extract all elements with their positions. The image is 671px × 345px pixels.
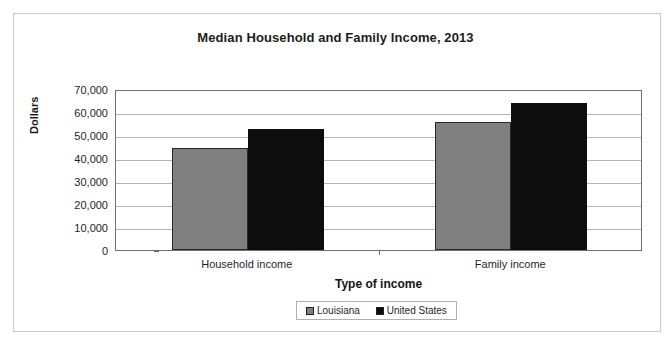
legend-swatch xyxy=(376,307,384,315)
y-tick-label: 70,000 xyxy=(50,85,108,96)
y-tick-label: 50,000 xyxy=(50,131,108,142)
y-tick-label: 30,000 xyxy=(50,177,108,188)
bar-family-income-louisiana xyxy=(435,122,511,250)
x-axis-title: Type of income xyxy=(115,277,642,291)
y-tick-label: 40,000 xyxy=(50,154,108,165)
legend-label: United States xyxy=(387,306,447,316)
y-axis-tick-labels: 70,00060,00050,00040,00030,00020,00010,0… xyxy=(46,0,108,345)
legend-label: Louisiana xyxy=(317,306,360,316)
y-axis-title: Dollars xyxy=(28,97,40,134)
plot-area xyxy=(115,90,642,251)
y-tick-label: 60,000 xyxy=(50,108,108,119)
y-tick-label: 10,000 xyxy=(50,223,108,234)
legend-item-united-states[interactable]: United States xyxy=(376,306,447,316)
bars-layer xyxy=(116,91,641,250)
chart-figure: Median Household and Family Income, 2013… xyxy=(0,0,671,345)
legend-item-louisiana[interactable]: Louisiana xyxy=(306,306,360,316)
bar-family-income-united-states xyxy=(511,103,587,250)
y-tick-label: 0 xyxy=(50,246,108,257)
bar-household-income-louisiana xyxy=(172,148,248,250)
x-tick-label: Family income xyxy=(379,258,643,270)
x-tick-mark xyxy=(379,251,380,255)
bar-household-income-united-states xyxy=(248,129,324,250)
chart-legend: LouisianaUnited States xyxy=(296,301,457,320)
x-tick-label: Household income xyxy=(115,258,379,270)
legend-swatch xyxy=(306,307,314,315)
y-tick-mark xyxy=(154,251,159,252)
y-tick-label: 20,000 xyxy=(50,200,108,211)
